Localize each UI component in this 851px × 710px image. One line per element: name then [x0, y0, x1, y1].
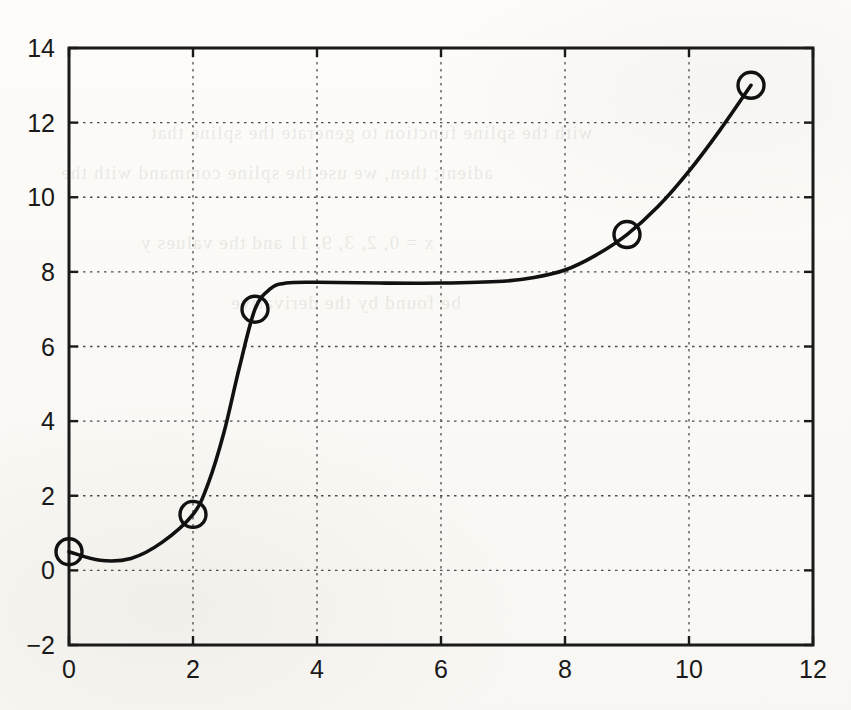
y-tick-label: 6 [41, 333, 55, 361]
x-tick-label: 6 [434, 655, 448, 683]
x-tick-label: 2 [186, 655, 200, 683]
y-tick-label: 10 [27, 183, 55, 211]
x-tick-label: 8 [558, 655, 572, 683]
y-tick-label: 14 [27, 34, 55, 62]
x-tick-label: 12 [799, 655, 827, 683]
tick-labels: 02468101214121086420−2 [26, 34, 826, 683]
x-tick-label: 10 [675, 655, 703, 683]
y-tick-label: −2 [26, 631, 55, 659]
y-tick-label: 12 [27, 109, 55, 137]
x-tick-label: 0 [62, 655, 76, 683]
chart-canvas: 02468101214121086420−2 [0, 0, 851, 710]
grid-layer [69, 48, 813, 645]
y-tick-label: 2 [41, 482, 55, 510]
figure-page: with the spline function to generate the… [0, 0, 851, 710]
y-tick-label: 4 [41, 407, 55, 435]
x-tick-label: 4 [310, 655, 324, 683]
data-point-markers [56, 72, 764, 564]
y-tick-label: 8 [41, 258, 55, 286]
y-tick-label: 0 [41, 556, 55, 584]
spline-curve [69, 85, 751, 561]
spline-curve-path [69, 85, 751, 561]
